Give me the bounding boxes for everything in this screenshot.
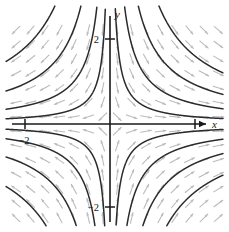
y-axis-label: y <box>114 8 120 20</box>
direction-field-figure: −2 2 −2 x y <box>0 0 229 232</box>
y-axis-tick-label-pos2: 2 <box>94 34 99 45</box>
y-axis-tick-label-neg2: −2 <box>88 202 99 213</box>
x-axis-tick-label-neg2: −2 <box>18 135 29 146</box>
direction-field-plot: −2 2 −2 x y <box>0 0 229 232</box>
x-axis-label: x <box>211 118 217 130</box>
